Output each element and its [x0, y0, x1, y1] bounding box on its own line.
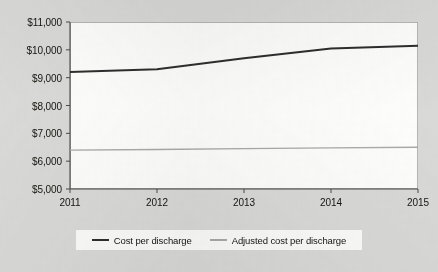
y-tick-label: $10,000	[0, 44, 62, 55]
legend-item-cost-per-discharge: Cost per discharge	[92, 235, 192, 246]
x-tick-label: 2013	[219, 197, 269, 208]
chart-legend: Cost per discharge Adjusted cost per dis…	[76, 230, 362, 250]
y-tick-label: $9,000	[0, 72, 62, 83]
legend-label-secondary: Adjusted cost per discharge	[232, 235, 347, 246]
y-tick-label: $8,000	[0, 100, 62, 111]
y-tick-label: $7,000	[0, 128, 62, 139]
legend-item-adjusted-cost-per-discharge: Adjusted cost per discharge	[210, 235, 347, 246]
legend-label-primary: Cost per discharge	[114, 235, 192, 246]
chart-figure: $11,000$10,000$9,000$8,000$7,000$6,000$5…	[0, 0, 438, 272]
legend-line-icon-secondary	[210, 239, 227, 241]
y-tick-label: $5,000	[0, 184, 62, 195]
legend-line-icon-primary	[92, 239, 109, 241]
y-tick-label: $11,000	[0, 17, 62, 28]
x-tick-label: 2015	[393, 197, 438, 208]
x-tick-label: 2014	[306, 197, 356, 208]
x-tick-label: 2012	[132, 197, 182, 208]
y-tick-label: $6,000	[0, 156, 62, 167]
x-tick-label: 2011	[45, 197, 95, 208]
